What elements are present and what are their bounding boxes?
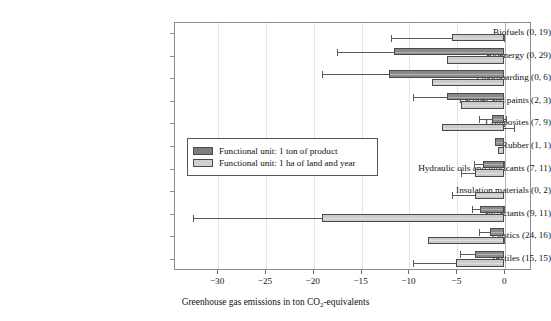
x-axis-tick-label: −10 (388, 276, 428, 286)
legend-label: Functional unit: 1 ton of product (219, 146, 337, 156)
category-tick (170, 33, 174, 34)
bar-ha-of-land (447, 56, 504, 64)
category-tick (170, 214, 174, 215)
error-bar-cap (506, 116, 507, 123)
category-tick (170, 169, 174, 170)
category-tick (170, 78, 174, 79)
x-axis-tick (408, 270, 409, 274)
category-label: Rubber (1, 1) (381, 140, 551, 150)
chart-figure: Biofuels (0, 19)Bioenergy (0, 29)Floorbo… (0, 0, 551, 321)
error-bar-cap (452, 192, 453, 199)
bar-ha-of-land (432, 79, 504, 87)
error-bar-cap (413, 94, 414, 101)
legend-item: Functional unit: 1 ha of land and year (193, 158, 372, 168)
category-tick (170, 56, 174, 57)
error-bar-cap (514, 125, 515, 132)
category-tick (170, 123, 174, 124)
error-bar-cap (337, 49, 338, 56)
x-axis-tick (361, 270, 362, 274)
bar-ton-of-product (483, 161, 504, 169)
error-bar-cap (504, 237, 505, 244)
bar-ton-of-product (447, 93, 504, 101)
error-bar-cap (479, 116, 480, 123)
category-tick (170, 191, 174, 192)
bar-ha-of-land (461, 101, 504, 109)
legend-label: Functional unit: 1 ha of land and year (219, 158, 356, 168)
category-label: Insulation materials (0, 2) (381, 185, 551, 195)
chart-legend: Functional unit: 1 ton of product Functi… (187, 138, 378, 176)
bar-ha-of-land (452, 34, 505, 42)
category-label: Hydraulic oils and lubricants (7, 11) (381, 163, 551, 173)
x-axis-tick (504, 270, 505, 274)
bar-ha-of-land (442, 124, 504, 132)
x-axis-tick-label: −20 (293, 276, 333, 286)
x-axis-tick (217, 270, 218, 274)
error-bar-cap (461, 170, 462, 177)
error-bar-cap (504, 161, 505, 168)
bar-ha-of-land (498, 147, 504, 155)
error-bar-cap (460, 251, 461, 258)
bar-ton-of-product (492, 115, 504, 123)
error-bar-cap (479, 229, 480, 236)
x-axis-tick-label: −5 (436, 276, 476, 286)
x-axis-tick (313, 270, 314, 274)
bar-ton-of-product (490, 228, 504, 236)
x-axis-tick-label: −15 (341, 276, 381, 286)
bar-ton-of-product (389, 70, 504, 78)
bar-ton-of-product (495, 138, 505, 146)
category-tick (170, 259, 174, 260)
bar-ton-of-product (394, 48, 504, 56)
error-bar-cap (322, 71, 323, 78)
error-bar-cap (474, 161, 475, 168)
legend-swatch-light-icon (193, 159, 213, 167)
x-axis-title: Greenhouse gas emissions in ton CO2-equi… (0, 297, 551, 309)
category-tick (170, 236, 174, 237)
x-axis-tick-label: −25 (245, 276, 285, 286)
category-tick (170, 101, 174, 102)
error-bar-cap (193, 215, 194, 222)
bar-ha-of-land (428, 237, 505, 245)
bar-ha-of-land (475, 169, 504, 177)
x-axis-tick-label: −30 (197, 276, 237, 286)
error-bar-cap (504, 206, 505, 213)
error-bar-cap (504, 35, 505, 42)
error-bar-cap (472, 206, 473, 213)
bar-ton-of-product (475, 251, 504, 259)
x-axis-tick (456, 270, 457, 274)
category-tick (170, 146, 174, 147)
x-axis-tick (265, 270, 266, 274)
error-bar-cap (391, 35, 392, 42)
error-bar-cap (413, 260, 414, 267)
bar-ha-of-land (322, 214, 504, 222)
x-axis-tick-label: 0 (484, 276, 524, 286)
legend-swatch-dark-icon (193, 147, 213, 155)
bar-ton-of-product (480, 206, 504, 214)
legend-item: Functional unit: 1 ton of product (193, 146, 372, 156)
bar-ha-of-land (475, 192, 504, 200)
bar-ha-of-land (456, 259, 504, 267)
